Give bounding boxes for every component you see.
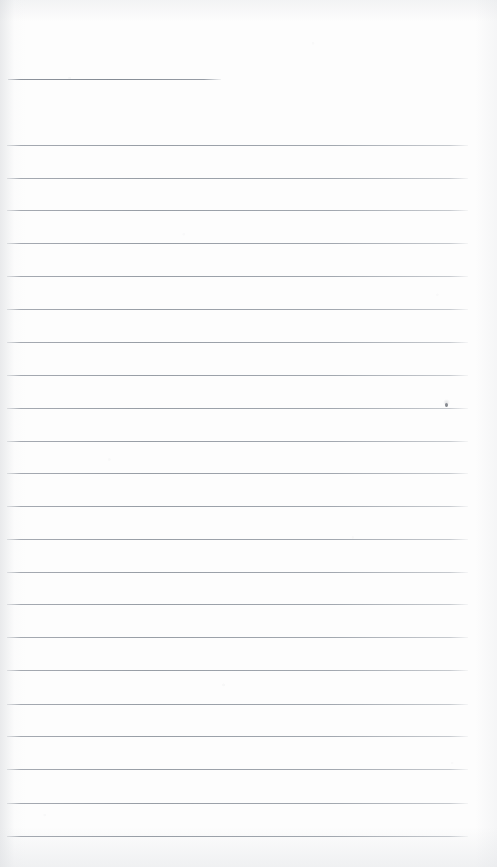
ruled-line xyxy=(7,276,468,277)
ruled-line xyxy=(7,539,468,540)
ruled-line xyxy=(7,572,468,573)
ruled-line xyxy=(7,506,468,507)
ruled-line xyxy=(7,803,468,804)
heading-rule xyxy=(8,79,221,80)
ruled-line xyxy=(7,670,468,671)
ruled-line xyxy=(7,637,468,638)
ruled-line xyxy=(7,704,468,705)
ruled-line xyxy=(7,473,468,474)
ruled-line xyxy=(7,145,468,146)
ruled-line xyxy=(7,342,468,343)
ruled-line xyxy=(7,210,468,211)
ruled-line xyxy=(7,836,468,837)
ruled-line xyxy=(7,243,468,244)
ink-speck xyxy=(445,403,448,407)
ruled-line xyxy=(7,604,468,605)
ruled-line xyxy=(7,309,468,310)
notepad-page xyxy=(0,0,497,867)
ruled-line xyxy=(7,408,468,409)
ruled-line xyxy=(7,769,468,770)
ruled-line xyxy=(7,441,468,442)
ruled-line xyxy=(7,375,468,376)
ruled-line xyxy=(7,736,468,737)
ruled-line xyxy=(7,178,468,179)
